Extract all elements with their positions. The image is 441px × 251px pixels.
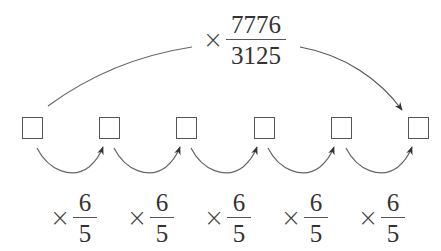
top-times-sign: ×: [203, 28, 223, 52]
step-3-denominator: 5: [233, 221, 246, 246]
step-3-numerator: 6: [233, 190, 246, 215]
step-4-times-sign: ×: [281, 206, 301, 230]
fraction-bar: [226, 39, 286, 40]
step-2-times-sign: ×: [127, 206, 147, 230]
step-arrow-5: [346, 147, 412, 173]
step-5-fraction: 6 5: [381, 190, 405, 246]
step-5-times-sign: ×: [358, 206, 378, 230]
step-5-denominator: 5: [387, 221, 400, 246]
step-4-denominator: 5: [310, 221, 323, 246]
step-2-denominator: 5: [156, 221, 169, 246]
step-2-numerator: 6: [156, 190, 169, 215]
box-5: [331, 117, 352, 139]
step-arrow-2: [114, 147, 180, 173]
multiplication-chain-diagram: × 7776 3125 × 6 5 × 6 5 × 6 5 × 6 5 × 6 …: [0, 0, 441, 251]
top-numerator: 7776: [231, 12, 281, 37]
step-2-fraction: 6 5: [150, 190, 174, 246]
step-1-denominator: 5: [79, 221, 92, 246]
top-arrow-right-segment: [300, 47, 402, 110]
step-arrow-3: [191, 147, 257, 173]
fraction-bar: [304, 217, 328, 218]
step-3-times-sign: ×: [204, 206, 224, 230]
box-1: [22, 117, 43, 139]
step-3-fraction: 6 5: [227, 190, 251, 246]
step-1-numerator: 6: [79, 190, 92, 215]
step-5-numerator: 6: [387, 190, 400, 215]
box-3: [176, 117, 197, 139]
box-2: [99, 117, 120, 139]
step-4-fraction: 6 5: [304, 190, 328, 246]
step-arrow-1: [37, 147, 103, 173]
fraction-bar: [150, 217, 174, 218]
step-1-times-sign: ×: [50, 206, 70, 230]
top-fraction: 7776 3125: [226, 12, 286, 68]
top-arrow-left-segment: [48, 47, 192, 106]
box-4: [254, 117, 275, 139]
fraction-bar: [381, 217, 405, 218]
fraction-bar: [227, 217, 251, 218]
step-arrow-4: [268, 147, 334, 173]
box-6: [408, 117, 429, 139]
fraction-bar: [73, 217, 97, 218]
step-1-fraction: 6 5: [73, 190, 97, 246]
step-4-numerator: 6: [310, 190, 323, 215]
top-denominator: 3125: [231, 43, 281, 68]
